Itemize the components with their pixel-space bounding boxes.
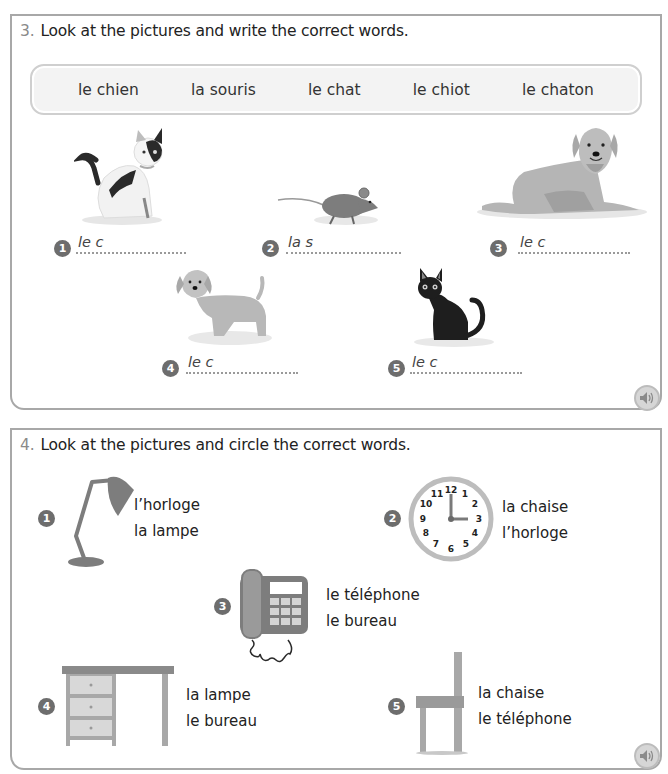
choice-option[interactable]: la chaise xyxy=(478,680,572,706)
clock-picture: 12 1 2 3 4 5 6 7 8 9 10 11 xyxy=(408,476,494,562)
exercise-3-panel: 3.Look at the pictures and write the cor… xyxy=(10,14,662,410)
cat-picture xyxy=(74,128,169,228)
svg-text:10: 10 xyxy=(420,499,433,509)
answer-field-4[interactable]: le c xyxy=(186,354,298,374)
item-number-badge: 4 xyxy=(38,698,55,715)
speaker-icon xyxy=(639,391,655,405)
svg-text:3: 3 xyxy=(476,514,482,524)
choice-option[interactable]: le bureau xyxy=(186,708,257,734)
item-number-badge: 1 xyxy=(54,240,71,257)
word-bank-item: le chat xyxy=(308,81,361,99)
word-bank-item: la souris xyxy=(191,81,256,99)
answer-field-1[interactable]: le c xyxy=(76,234,186,254)
desk-picture xyxy=(62,664,174,748)
svg-text:1: 1 xyxy=(462,489,468,499)
word-bank-item: le chiot xyxy=(413,81,470,99)
svg-text:7: 7 xyxy=(433,539,439,549)
chair-picture xyxy=(414,652,470,762)
exercise-4-title: 4.Look at the pictures and circle the co… xyxy=(20,436,411,454)
exercise-number: 3. xyxy=(20,22,34,40)
choice-option[interactable]: le téléphone xyxy=(326,582,420,608)
svg-text:9: 9 xyxy=(420,514,426,524)
choice-option[interactable]: la chaise xyxy=(502,494,568,520)
answer-field-5[interactable]: le c xyxy=(410,354,522,374)
answer-field-3[interactable]: le c xyxy=(518,234,630,254)
answer-field-2[interactable]: la s xyxy=(286,234,401,254)
desk-lamp-picture xyxy=(66,476,134,568)
audio-button[interactable] xyxy=(634,385,660,411)
exercise-4-panel: 4.Look at the pictures and circle the co… xyxy=(10,428,662,770)
choice-option[interactable]: la lampe xyxy=(186,682,257,708)
dog-picture xyxy=(474,124,649,224)
svg-text:11: 11 xyxy=(431,489,444,499)
exercise-3-title: 3.Look at the pictures and write the cor… xyxy=(20,22,408,40)
choice-list-3: le téléphone le bureau xyxy=(326,582,420,634)
word-bank-item: le chaton xyxy=(522,81,594,99)
exercise-instruction: Look at the pictures and circle the corr… xyxy=(40,436,410,454)
svg-text:6: 6 xyxy=(448,544,454,554)
item-number-badge: 5 xyxy=(388,360,405,377)
choice-list-5: la chaise le téléphone xyxy=(478,680,572,732)
item-number-badge: 4 xyxy=(162,360,179,377)
svg-text:2: 2 xyxy=(472,499,478,509)
svg-text:4: 4 xyxy=(472,528,478,538)
choice-list-4: la lampe le bureau xyxy=(186,682,257,734)
choice-option[interactable]: le téléphone xyxy=(478,706,572,732)
clock-number-12: 12 xyxy=(445,485,458,495)
choice-option[interactable]: le bureau xyxy=(326,608,420,634)
choice-list-2: la chaise l’horloge xyxy=(502,494,568,546)
svg-text:5: 5 xyxy=(463,539,469,549)
item-number-badge: 5 xyxy=(388,698,405,715)
choice-option[interactable]: la lampe xyxy=(134,518,200,544)
audio-button[interactable] xyxy=(634,743,660,769)
choice-list-1: l’horloge la lampe xyxy=(134,492,200,544)
exercise-instruction: Look at the pictures and write the corre… xyxy=(40,22,408,40)
svg-text:8: 8 xyxy=(423,528,429,538)
black-kitten-picture xyxy=(408,266,498,350)
puppy-picture xyxy=(174,268,279,346)
word-bank: le chien la souris le chat le chiot le c… xyxy=(30,64,642,115)
item-number-badge: 2 xyxy=(384,510,401,527)
exercise-number: 4. xyxy=(20,436,34,454)
item-number-badge: 1 xyxy=(38,510,55,527)
item-number-badge: 2 xyxy=(262,240,279,257)
item-number-badge: 3 xyxy=(490,240,507,257)
choice-option[interactable]: l’horloge xyxy=(134,492,200,518)
telephone-picture xyxy=(238,568,310,668)
choice-option[interactable]: l’horloge xyxy=(502,520,568,546)
speaker-icon xyxy=(639,749,655,763)
mouse-picture xyxy=(274,180,384,228)
word-bank-item: le chien xyxy=(78,81,139,99)
item-number-badge: 3 xyxy=(214,598,231,615)
